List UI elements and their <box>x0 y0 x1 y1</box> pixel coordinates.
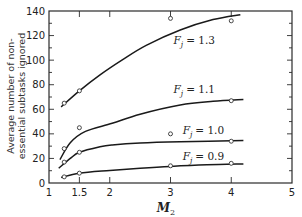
y-tick-label: 80 <box>32 79 45 90</box>
data-point-marker <box>169 16 173 20</box>
data-point-marker <box>62 147 66 151</box>
y-tick-label: 120 <box>26 30 45 41</box>
x-axis-label-subscript: 2 <box>170 208 175 217</box>
line-chart: Average number of non- essential subtask… <box>0 0 302 217</box>
y-tick-label: 20 <box>32 153 45 164</box>
x-axis-label: M2 <box>156 201 175 217</box>
y-tick-label: 0 <box>39 178 45 189</box>
y-tick-label: 40 <box>32 128 45 139</box>
data-point-marker <box>229 139 233 143</box>
data-point-marker <box>169 132 173 136</box>
data-point-marker <box>77 171 81 175</box>
series-label: Fj= 0.9 <box>182 150 224 165</box>
data-point-marker <box>62 160 66 164</box>
series-label-value: = 1.0 <box>195 124 224 136</box>
svg-text:M2: M2 <box>156 201 175 217</box>
data-point-marker <box>229 19 233 23</box>
data-point-marker <box>77 126 81 130</box>
series-label: Fj= 1.0 <box>182 124 224 139</box>
series-curve <box>61 164 243 178</box>
y-axis-label: Average number of non- essential subtask… <box>5 33 27 160</box>
x-tick-label: 3 <box>167 187 173 198</box>
data-point-marker <box>229 99 233 103</box>
series-label: Fj= 1.1 <box>173 83 215 98</box>
x-axis-label-main: M <box>156 201 171 215</box>
series-label-value: = 0.9 <box>195 150 224 162</box>
series-labels: Fj= 1.3Fj= 1.1Fj= 1.0Fj= 0.9 <box>173 34 225 164</box>
data-point-marker <box>77 89 81 93</box>
x-tick-label: 1.5 <box>71 187 87 198</box>
x-tick-label: 5 <box>289 187 295 198</box>
data-point-marker <box>62 101 66 105</box>
data-point-marker <box>229 161 233 165</box>
y-tick-label: 100 <box>26 55 45 66</box>
y-tick-label: 140 <box>26 6 45 17</box>
y-axis-label-line-2: essential subtasks ignored <box>16 33 27 160</box>
plot-frame <box>49 11 292 183</box>
x-tick-label: 1 <box>46 187 52 198</box>
y-axis-label-line-1: Average number of non- <box>5 38 16 154</box>
x-tick-label: 4 <box>228 187 234 198</box>
axis-ticks <box>49 11 292 183</box>
series-label-value: = 1.1 <box>186 83 215 95</box>
x-tick-label: 2 <box>107 187 113 198</box>
data-point-marker <box>169 164 173 168</box>
y-tick-label: 60 <box>32 104 45 115</box>
data-point-marker <box>62 175 66 179</box>
data-point-marker <box>77 150 81 154</box>
series-label-value: = 1.3 <box>186 34 215 46</box>
series-label: Fj= 1.3 <box>173 34 215 49</box>
